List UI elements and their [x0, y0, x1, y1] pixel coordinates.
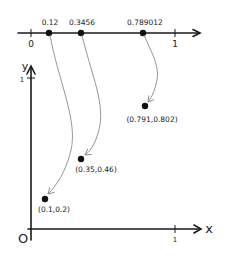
number-line-point-dot	[140, 30, 146, 36]
number-line-point-label: 0.12	[42, 18, 59, 27]
x-tick-label: 1	[173, 236, 177, 244]
number-line-point-dot	[78, 30, 84, 36]
plane-point-dot	[78, 156, 84, 162]
number-line-point-label: 0.3456	[69, 18, 95, 27]
plane-point-dot	[42, 196, 48, 202]
plane-point-dot	[142, 103, 148, 109]
y-tick-label: 1	[20, 76, 24, 84]
x-axis-label: x	[205, 221, 213, 236]
plane-point-label: (0.1,0.2)	[38, 205, 70, 214]
number-line-one-label: 1	[172, 39, 178, 49]
number-line-point-dot	[46, 30, 52, 36]
number-line-zero-label: 0	[28, 39, 34, 49]
origin-label: O	[18, 231, 28, 246]
number-line-point-label: 0.789012	[127, 18, 163, 27]
mapping-arrow-icon	[48, 35, 72, 194]
mapping-arrow-icon	[82, 35, 101, 155]
y-axis-label: y	[22, 60, 29, 73]
mapping-arrow-icon	[144, 35, 158, 102]
number-line: 0 1 0.12 0.3456 0.789012	[18, 18, 200, 49]
plane-point-label: (0.35,0.46)	[75, 165, 117, 174]
coordinate-plane: 1 1 y x O (0.791,0.802) (0.35,0.46) (0.1…	[18, 60, 213, 246]
mapping-diagram: 0 1 0.12 0.3456 0.789012 1 1 y x O (0.79…	[0, 0, 229, 264]
plane-point-label: (0.791,0.802)	[126, 115, 177, 124]
